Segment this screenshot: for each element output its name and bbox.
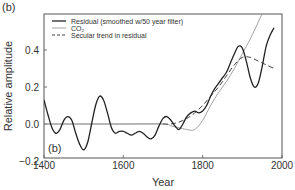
y-tick-label: 0.0 (25, 119, 39, 130)
x-tick-label: 1600 (112, 160, 135, 171)
x-tick-label: 1800 (192, 160, 215, 171)
x-axis-title: Year (152, 176, 175, 188)
y-axis-title: Relative amplitude (2, 41, 14, 132)
legend-label: CO₂ (71, 25, 85, 32)
chart-svg: (b) −0.20.00.20.4 1400160018002000 Relat… (0, 0, 295, 190)
y-tick-label: 0.2 (25, 82, 39, 93)
panel-label-outer: (b) (2, 1, 15, 13)
panel-label-inner: (b) (48, 142, 61, 154)
legend-label: Residual (smoothed w/50 year filter) (71, 18, 183, 26)
y-axis: −0.20.00.20.4 (19, 45, 47, 167)
x-tick-label: 1400 (33, 160, 56, 171)
x-tick-label: 2000 (271, 160, 294, 171)
legend-label: Secular trend in residual (71, 32, 147, 39)
y-tick-label: 0.4 (25, 45, 39, 56)
